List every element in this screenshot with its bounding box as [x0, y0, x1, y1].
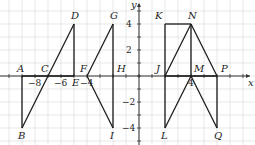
point-label-A: A	[16, 63, 24, 74]
coordinate-diagram: xy −8−6−4442−2−4 ABCDEFGHIJKLMNPQ	[0, 0, 255, 145]
point-label-K: K	[154, 10, 163, 21]
point-label-B: B	[17, 130, 25, 141]
point-label-F: F	[79, 63, 88, 74]
x-tick-label: −8	[28, 78, 42, 88]
y-tick-label: 4	[126, 19, 132, 29]
y-tick-label: 2	[126, 45, 132, 55]
point-label-C: C	[41, 63, 49, 74]
point-label-H: H	[116, 63, 126, 74]
x-tick-label: −4	[80, 78, 94, 88]
point-label-M: M	[193, 63, 205, 74]
point-label-G: G	[110, 10, 118, 21]
y-tick-label: −2	[122, 97, 135, 107]
x-tick-label: −6	[54, 78, 68, 88]
x-axis-label: x	[248, 77, 254, 88]
point-label-D: D	[70, 10, 79, 21]
point-label-N: N	[187, 10, 198, 21]
y-axis-label: y	[130, 0, 137, 10]
point-label-Q: Q	[214, 130, 222, 141]
point-label-E: E	[71, 77, 80, 88]
y-tick-label: −4	[122, 123, 136, 133]
point-label-L: L	[160, 130, 168, 141]
point-label-I: I	[109, 130, 115, 141]
point-label-J: J	[154, 63, 161, 74]
point-label-P: P	[220, 63, 228, 74]
